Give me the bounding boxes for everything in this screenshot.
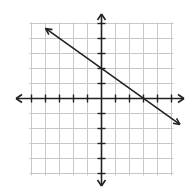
axes (16, 14, 184, 186)
graph-line (46, 28, 180, 124)
plotted-line (46, 28, 180, 124)
coordinate-plane (0, 0, 192, 196)
